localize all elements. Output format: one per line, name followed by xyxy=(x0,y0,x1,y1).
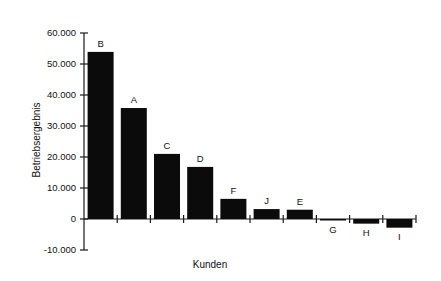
bar-label-c: C xyxy=(164,140,171,151)
bar-label-h: H xyxy=(363,227,370,238)
bar-series xyxy=(88,52,413,228)
bar-label-a: A xyxy=(131,94,138,105)
y-tick-label: 10.000 xyxy=(47,182,76,193)
bar-label-f: F xyxy=(230,185,236,196)
x-axis-title: Kunden xyxy=(193,259,227,270)
bar-b xyxy=(88,52,114,219)
y-tick-label: 20.000 xyxy=(47,151,76,162)
bar-label-d: D xyxy=(197,153,204,164)
bar-i xyxy=(386,219,412,228)
y-tick-label: 30.000 xyxy=(47,120,76,131)
y-axis-ticks: 60.00050.00040.00030.00020.00010.0000-10… xyxy=(44,27,88,255)
y-axis-title: Betriebsergebnis xyxy=(31,102,42,177)
bar-j xyxy=(254,209,280,219)
bar-c xyxy=(154,154,180,219)
y-tick-label: 60.000 xyxy=(47,27,76,38)
bar-label-g: G xyxy=(329,224,336,235)
bar-label-j: J xyxy=(264,195,269,206)
bar-label-i: I xyxy=(398,231,401,242)
bar-h xyxy=(353,219,379,224)
y-tick-label: 40.000 xyxy=(47,89,76,100)
bar-chart: Betriebsergebnis 60.00050.00040.00030.00… xyxy=(0,0,441,281)
chart-canvas: Betriebsergebnis 60.00050.00040.00030.00… xyxy=(0,0,441,281)
bar-g xyxy=(320,219,346,221)
bar-a xyxy=(121,108,147,219)
bar-e xyxy=(287,210,313,219)
bar-label-e: E xyxy=(297,196,303,207)
y-tick-label: -10.000 xyxy=(44,244,76,255)
y-tick-label: 0 xyxy=(71,213,76,224)
bar-label-b: B xyxy=(97,38,103,49)
bar-f xyxy=(220,199,246,219)
y-tick-label: 50.000 xyxy=(47,58,76,69)
bar-d xyxy=(187,167,213,219)
